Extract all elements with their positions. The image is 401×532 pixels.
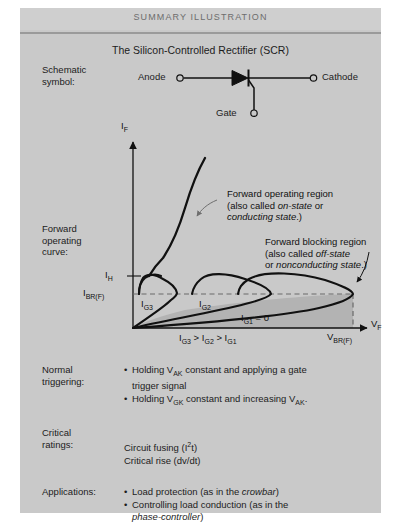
row-label-forward-curve: Forward operating curve:	[42, 223, 82, 258]
panel-subtitle: The Silicon-Controlled Rectifier (SCR)	[20, 44, 381, 56]
gate-current-inequality: IG3 > IG2 > IG1	[179, 332, 237, 345]
leader-forward-operating	[197, 200, 217, 216]
annotation-foa-line1: Forward operating region	[227, 188, 333, 200]
applications-item-1: Load protection (as in the crowbar)	[124, 486, 288, 499]
applications-list: Load protection (as in the crowbar) Cont…	[124, 486, 288, 524]
applications-item-2: Controlling load conduction (as in the	[124, 499, 288, 512]
row-label-curve-line3: curve:	[42, 246, 68, 257]
row-label-schematic-line2: symbol:	[42, 76, 75, 87]
row-label-applications: Applications:	[42, 486, 96, 498]
annotation-foa-line3: conducting state.)	[227, 211, 333, 223]
curve-label-ig3: IG3	[141, 298, 153, 311]
annotation-forward-operating-region: Forward operating region (also called on…	[227, 188, 333, 223]
gate-terminal-circle	[251, 110, 257, 116]
ibrf-tick-label: IBR(F)	[83, 287, 104, 300]
y-axis-label: IF	[121, 120, 128, 133]
summary-illustration-panel: SUMMARY ILLUSTRATION The Silicon-Control…	[20, 8, 381, 513]
anode-terminal-circle	[177, 75, 183, 81]
page-root: SUMMARY ILLUSTRATION The Silicon-Control…	[0, 0, 401, 532]
ratings-item-1: Circuit fusing (I2t)	[124, 439, 201, 455]
ratings-list: Circuit fusing (I2t) Critical rise (dv/d…	[124, 439, 201, 467]
gate-label: Gate	[216, 107, 237, 118]
cathode-label: Cathode	[322, 71, 358, 82]
thyristor-triangle-icon	[232, 71, 248, 86]
panel-header-title: SUMMARY ILLUSTRATION	[20, 12, 381, 22]
triggering-item-1: Holding VAK constant and applying a gate	[124, 364, 307, 380]
triggering-list: Holding VAK constant and applying a gate…	[124, 364, 307, 409]
ratings-item-2: Critical rise (dv/dt)	[124, 455, 201, 468]
x-axis-label: VF	[371, 318, 382, 331]
triggering-item-2: Holding VGK constant and increasing VAK.	[124, 393, 307, 409]
cathode-terminal-circle	[310, 75, 316, 81]
row-label-schematic-line1: Schematic	[42, 64, 86, 75]
on-state-branch	[149, 158, 205, 276]
row-label-ratings-line1: Critical	[42, 427, 71, 438]
annotation-fba-line3: or nonconducting state.)	[265, 259, 367, 271]
annotation-forward-blocking-region: Forward blocking region (also called off…	[265, 236, 367, 271]
row-label-schematic: Schematic symbol:	[42, 64, 86, 87]
ih-tick-label: IH	[105, 269, 113, 282]
applications-item-2-cont: phase-controller)	[124, 511, 288, 524]
row-label-normal-triggering: Normal triggering:	[42, 364, 84, 387]
row-label-critical-ratings: Critical ratings:	[42, 427, 73, 450]
scr-iv-characteristic-chart: IF VF IH IBR(F) VBR(F) IG3 IG2 IG1 = 0 I…	[105, 128, 381, 356]
annotation-fba-line2: (also called off-state	[265, 248, 367, 260]
vbrf-tick-label: VBR(F)	[327, 331, 352, 344]
triggering-item-1-cont: trigger signal	[124, 380, 307, 393]
annotation-fba-line1: Forward blocking region	[265, 236, 367, 248]
row-label-curve-line2: operating	[42, 235, 82, 246]
anode-label: Anode	[138, 71, 165, 82]
row-label-ratings-line2: ratings:	[42, 439, 73, 450]
row-label-curve-line1: Forward	[42, 223, 77, 234]
header-divider	[20, 32, 381, 34]
row-label-trigger-line2: triggering:	[42, 376, 84, 387]
curve-label-ig1: IG1 = 0	[241, 312, 269, 325]
curve-label-ig2: IG2	[199, 298, 211, 311]
annotation-foa-line2: (also called on-state or	[227, 200, 333, 212]
row-label-trigger-line1: Normal	[42, 364, 73, 375]
scr-schematic-symbol: Anode Cathode Gate	[140, 66, 370, 126]
